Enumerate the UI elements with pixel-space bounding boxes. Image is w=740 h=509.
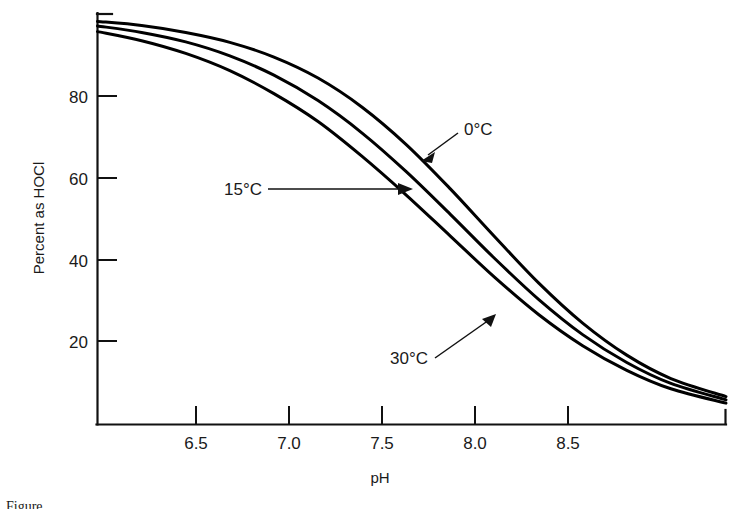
curve-30c: [98, 32, 727, 404]
data-curves-group: [98, 21, 727, 403]
y-axis-title: Percent as HOCl: [30, 162, 47, 275]
annotation-15c: 15°C: [224, 180, 413, 199]
annotation-15c-label: 15°C: [224, 180, 262, 199]
annotation-30c-arrowhead: [482, 314, 496, 327]
y-tick-label-60: 60: [69, 170, 88, 189]
annotation-0c-arrowhead: [421, 152, 435, 163]
y-tick-labels-group: 80 60 40 20: [69, 88, 88, 352]
chart-svg: 80 60 40 20 6.5 7.0 7.5 8.0 8.5 pH Perce…: [0, 0, 740, 509]
annotation-30c-leader: [435, 320, 489, 358]
x-tick-label-6-5: 6.5: [184, 434, 208, 453]
y-tick-label-40: 40: [69, 252, 88, 271]
x-ticks-group: [196, 406, 568, 424]
x-tick-label-7-5: 7.5: [370, 434, 394, 453]
annotation-30c-label: 30°C: [390, 349, 428, 368]
annotation-0c-leader: [428, 133, 458, 155]
curve-0c: [98, 21, 727, 396]
x-tick-label-8-5: 8.5: [556, 434, 580, 453]
annotation-30c: 30°C: [390, 314, 496, 368]
x-tick-labels-group: 6.5 7.0 7.5 8.0 8.5: [184, 434, 580, 453]
annotation-0c: 0°C: [421, 120, 493, 163]
y-ticks-group: [98, 96, 117, 341]
x-axis-title: pH: [370, 469, 389, 486]
x-tick-label-8-0: 8.0: [463, 434, 487, 453]
y-tick-label-20: 20: [69, 333, 88, 352]
annotation-0c-label: 0°C: [464, 120, 493, 139]
figure-caption: Figure: [6, 500, 43, 509]
y-tick-label-80: 80: [69, 88, 88, 107]
curve-15c: [98, 26, 727, 400]
x-tick-label-7-0: 7.0: [277, 434, 301, 453]
figure-container: 80 60 40 20 6.5 7.0 7.5 8.0 8.5 pH Perce…: [0, 0, 740, 509]
